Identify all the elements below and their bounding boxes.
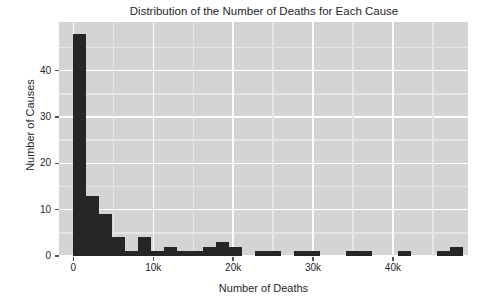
- histogram-bar: [398, 251, 411, 256]
- histogram-bar: [346, 251, 359, 256]
- histogram-bar: [255, 251, 268, 256]
- histogram-figure: Distribution of the Number of Deaths for…: [0, 0, 481, 304]
- histogram-bar: [190, 251, 203, 256]
- y-tick-mark: [55, 116, 59, 118]
- histogram-bar: [138, 237, 151, 256]
- x-tick-label: 20k: [213, 261, 253, 274]
- x-tick-mark: [73, 257, 75, 261]
- histogram-bar: [359, 251, 372, 256]
- plot-area: [59, 22, 468, 256]
- histogram-bar: [307, 251, 320, 256]
- y-tick-label: 0: [22, 251, 51, 261]
- x-tick-mark: [153, 257, 155, 261]
- histogram-bar: [216, 242, 229, 256]
- histogram-bar: [151, 251, 164, 256]
- y-tick-mark: [55, 255, 59, 257]
- chart-title: Distribution of the Number of Deaths for…: [59, 2, 469, 20]
- histogram-bar: [73, 34, 86, 256]
- histogram-bar: [99, 214, 112, 256]
- histogram-bar: [450, 247, 463, 256]
- x-tick-label: 10k: [133, 261, 173, 274]
- y-tick-mark: [55, 209, 59, 211]
- x-tick-mark: [312, 257, 314, 261]
- histogram-bar: [268, 251, 281, 256]
- histogram-bar: [125, 251, 138, 256]
- x-tick-label: 40k: [373, 261, 413, 274]
- histogram-bar: [164, 247, 177, 256]
- y-tick-label: 10: [22, 205, 51, 215]
- x-axis-label: Number of Deaths: [59, 281, 468, 295]
- histogram-bar: [112, 237, 125, 256]
- x-tick-mark: [232, 257, 234, 261]
- y-axis-label: Number of Causes: [23, 45, 37, 205]
- x-tick-label: 0: [53, 261, 93, 274]
- histogram-bar: [177, 251, 190, 256]
- histogram-bar: [229, 247, 242, 256]
- x-tick-mark: [392, 257, 394, 261]
- histogram-bar: [86, 196, 99, 256]
- y-tick-mark: [55, 163, 59, 165]
- histogram-bars: [59, 22, 468, 256]
- y-tick-mark: [55, 70, 59, 72]
- histogram-bar: [437, 251, 450, 256]
- x-tick-label: 30k: [293, 261, 333, 274]
- histogram-bar: [203, 247, 216, 256]
- histogram-bar: [294, 251, 307, 256]
